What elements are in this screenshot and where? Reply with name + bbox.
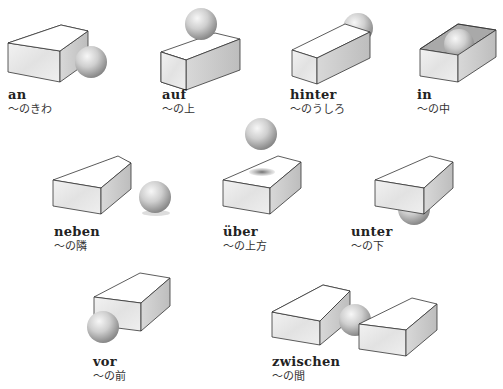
sphere-icon [185,8,217,40]
japanese-gloss: 〜の前 [93,370,126,383]
japanese-gloss: 〜のうしろ [290,103,345,116]
illustration-zwischen [272,285,437,356]
sphere-icon [87,311,119,343]
sphere-icon [245,118,277,150]
preposition-word: vor [93,355,117,369]
preposition-word: in [417,88,432,102]
japanese-gloss: 〜の中 [417,103,450,116]
preposition-word: auf [162,88,186,102]
preposition-word: unter [351,225,393,239]
preposition-word: zwischen [272,355,340,369]
preposition-word: hinter [290,88,337,102]
preposition-word: über [223,225,258,239]
illustration-neben [53,156,171,216]
prepositions-diagram: an 〜のきわ auf 〜の上 hinter 〜のうしろ in 〜の中 nebe… [0,0,503,389]
sphere-icon [139,181,171,213]
japanese-gloss: 〜の上 [162,103,195,116]
preposition-word: neben [54,225,100,239]
illustration-ueber [223,118,301,214]
japanese-gloss: 〜の間 [272,370,305,383]
illustration-auf [161,8,240,90]
diagram-illustrations [0,0,503,389]
illustration-in [420,24,496,82]
japanese-gloss: 〜の隣 [54,240,87,253]
illustration-vor [87,273,170,343]
japanese-gloss: 〜のきわ [8,103,52,116]
preposition-word: an [8,88,26,102]
illustration-an [8,25,107,82]
japanese-gloss: 〜の下 [351,240,384,253]
japanese-gloss: 〜の上方 [223,240,267,253]
illustration-hinter [292,13,373,84]
sphere-icon [75,46,107,78]
illustration-unter [375,156,453,225]
shadow-icon [249,168,275,176]
